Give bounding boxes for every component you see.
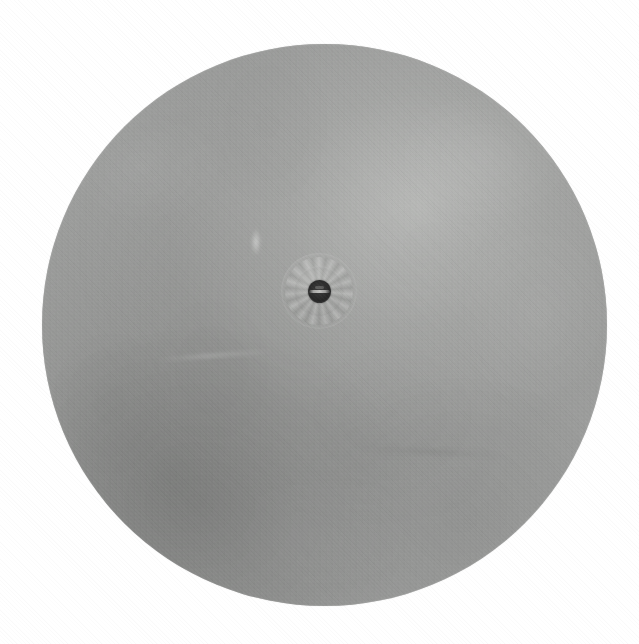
centre-hub <box>281 253 357 329</box>
centre-hole <box>308 280 331 303</box>
photo-canvas: Top-down photograph of a large flat circ… <box>0 0 639 644</box>
centre-hole-speck <box>315 286 324 289</box>
centre-hole-highlight <box>309 290 330 293</box>
